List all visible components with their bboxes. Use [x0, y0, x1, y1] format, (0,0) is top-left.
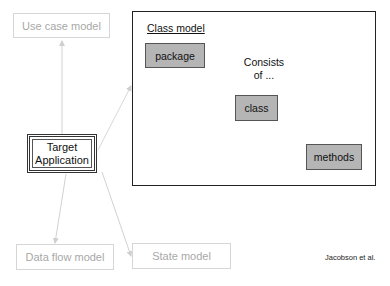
methods-label: methods [314, 151, 354, 163]
methods-node: methods [306, 144, 362, 170]
use-case-model-label: Use case model [22, 20, 101, 32]
package-label: package [155, 50, 195, 62]
package-node: package [145, 43, 205, 68]
consists-line2: of ... [237, 69, 291, 82]
target-application-box: Target Application [27, 134, 97, 173]
class-label: class [245, 102, 269, 114]
credit-text: Jacobson et al. [325, 253, 375, 262]
state-model-box: State model [132, 243, 231, 269]
class-model-title: Class model [147, 22, 205, 34]
target-application-line1: Target [47, 141, 78, 154]
consists-of-label: Consists of ... [237, 56, 291, 82]
data-flow-model-box: Data flow model [16, 244, 114, 270]
arrow-to-class-model [98, 86, 131, 150]
arrow-to-data-flow [55, 174, 66, 243]
data-flow-model-label: Data flow model [26, 251, 105, 263]
state-model-label: State model [152, 250, 211, 262]
use-case-model-box: Use case model [13, 13, 110, 38]
class-node: class [235, 95, 278, 121]
target-application-line2: Application [35, 154, 89, 167]
consists-line1: Consists [237, 56, 291, 69]
